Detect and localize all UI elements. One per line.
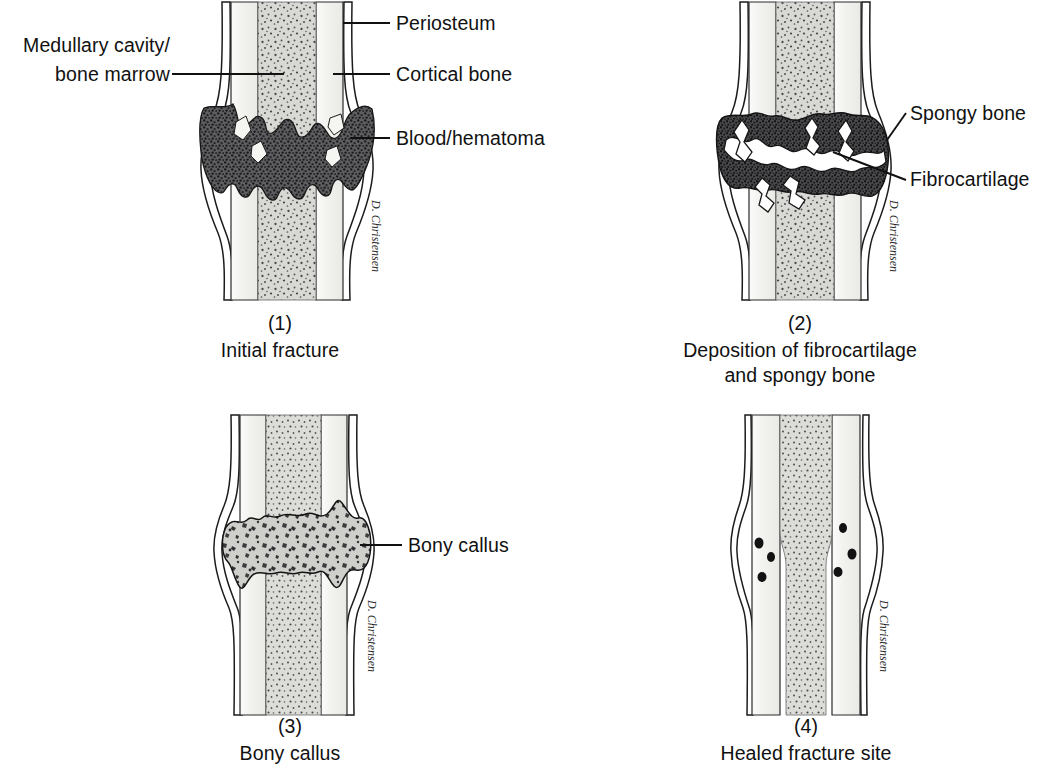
label-periosteum: Periosteum bbox=[396, 12, 496, 35]
cortical-bone-right bbox=[832, 415, 860, 715]
artist-signature: D. Christensen bbox=[365, 599, 379, 672]
artist-signature: D. Christensen bbox=[369, 199, 383, 272]
medullary-cavity-marrow bbox=[780, 415, 832, 715]
caption-number-1: (1) bbox=[190, 312, 370, 335]
label-bone-marrow: bone marrow bbox=[8, 63, 170, 86]
periosteum-left-outline bbox=[731, 415, 754, 715]
panel-2-illustration: D. Christensen bbox=[717, 2, 902, 300]
caption-text-4-line-1: Healed fracture site bbox=[706, 742, 906, 765]
artist-signature: D. Christensen bbox=[887, 199, 901, 272]
label-medullary-cavity: Medullary cavity/ bbox=[8, 34, 170, 57]
label-spongy-bone: Spongy bone bbox=[910, 102, 1026, 125]
caption-text-3-line-1: Bony callus bbox=[200, 742, 380, 765]
label-blood-hematoma: Blood/hematoma bbox=[396, 127, 545, 150]
leader-spongy-bone bbox=[887, 113, 906, 140]
artist-signature: D. Christensen bbox=[877, 599, 891, 672]
caption-text-2-line-2: and spongy bone bbox=[640, 364, 960, 387]
caption-text-2-line-1: Deposition of fibrocartilage bbox=[640, 339, 960, 362]
label-fibrocartilage: Fibrocartilage bbox=[910, 168, 1030, 191]
panel-1-illustration: D. Christensen bbox=[200, 2, 383, 300]
cortical-bone-left bbox=[752, 415, 780, 715]
caption-text-1-line-1: Initial fracture bbox=[190, 339, 370, 362]
panel-3-illustration: D. Christensen bbox=[214, 415, 379, 715]
panel-4-illustration: D. Christensen bbox=[731, 415, 891, 715]
caption-number-3: (3) bbox=[200, 715, 380, 738]
caption-number-4: (4) bbox=[716, 715, 896, 738]
label-cortical-bone: Cortical bone bbox=[396, 63, 512, 86]
caption-number-2: (2) bbox=[710, 312, 890, 335]
label-bony-callus: Bony callus bbox=[408, 534, 509, 557]
